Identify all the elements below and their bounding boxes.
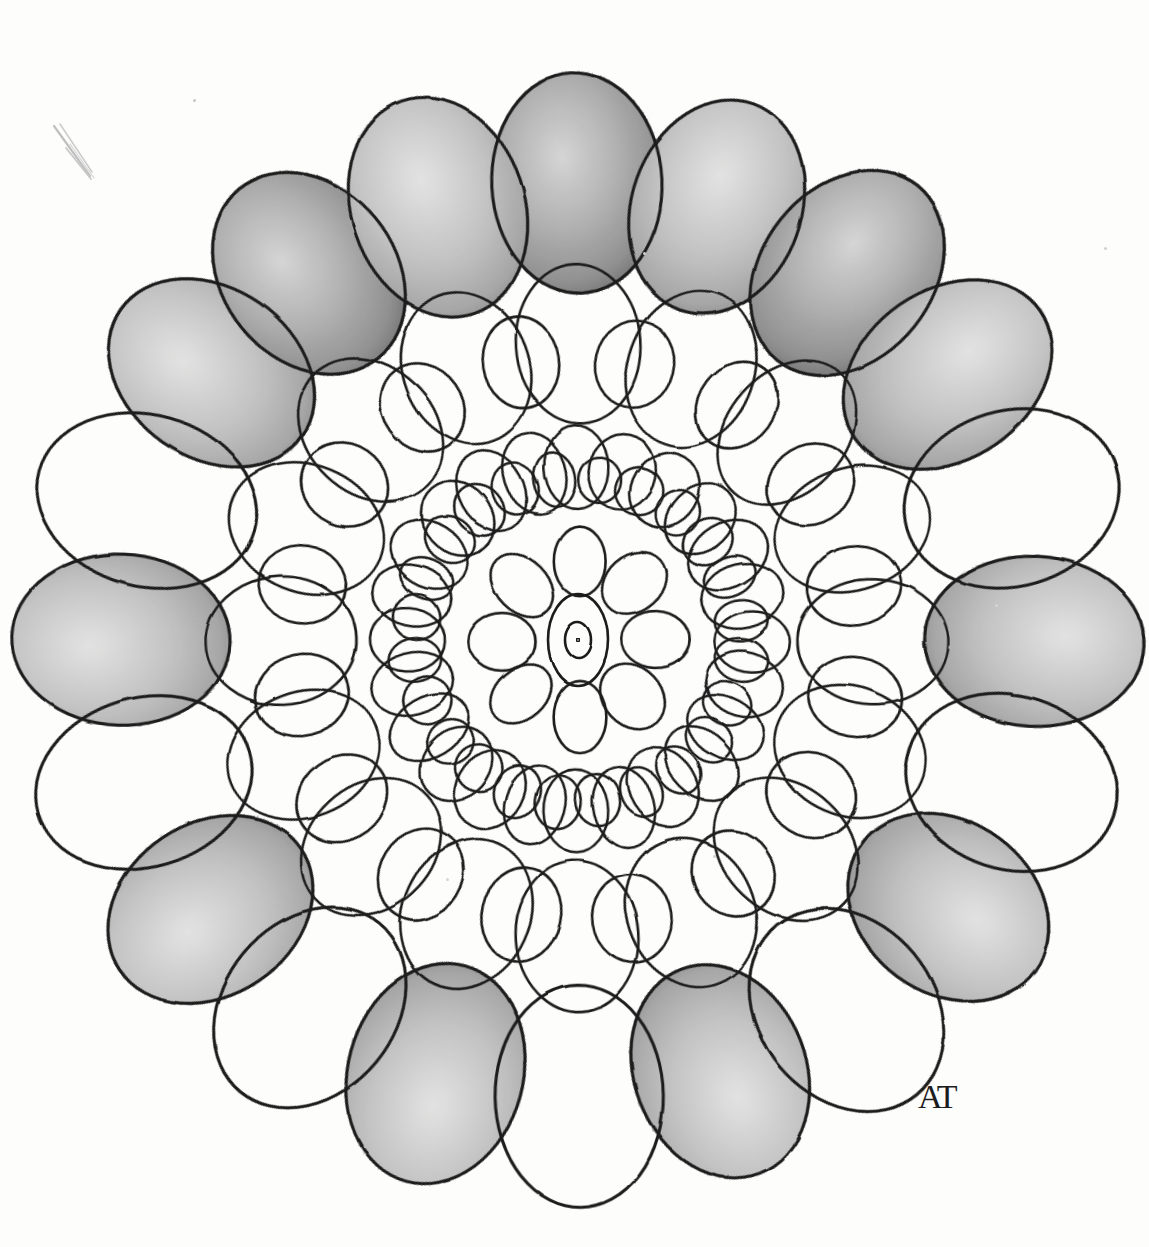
- paper-speck: [1104, 247, 1107, 250]
- middle-ring-small-lobe: [472, 860, 570, 970]
- core-outer-ellipse: [548, 594, 608, 686]
- inner-ring-large-lobe: [542, 769, 609, 854]
- paper-speck: [995, 604, 998, 607]
- core-dot: [576, 638, 579, 641]
- inner-ring-large-lobe: [378, 506, 481, 603]
- shaded-ellipse-fill: [320, 941, 552, 1206]
- paper-speck: [643, 252, 646, 255]
- artist-signature: AT: [918, 1078, 956, 1116]
- middle-ring-small-lobe: [361, 812, 481, 935]
- mandala-artwork-canvas: AT: [0, 0, 1149, 1247]
- inner-ring-small-lobe: [416, 506, 484, 572]
- middle-ring-small-lobe: [802, 540, 907, 632]
- mandala-core-layer: [548, 594, 608, 686]
- inner-ring-small-lobe: [419, 710, 482, 772]
- petal-ring-lobe: [553, 681, 606, 753]
- middle-ring-small-lobe: [679, 345, 795, 464]
- paper-speck: [713, 855, 716, 858]
- inner-ring-large-lobe: [542, 424, 610, 511]
- pencil-shading-layer: [7, 67, 1149, 1206]
- shaded-ellipse-fill: [919, 550, 1149, 733]
- middle-ring-small-lobe: [802, 649, 909, 744]
- middle-ring-small-lobe: [752, 428, 869, 542]
- shaded-ellipse-fill: [599, 936, 842, 1206]
- inner-ring-large-lobe: [649, 711, 753, 816]
- core-inner-ellipse: [565, 622, 591, 658]
- paper-speck: [193, 99, 196, 102]
- middle-ring-small-lobe: [750, 735, 873, 855]
- middle-ring-small-lobe: [586, 869, 678, 969]
- inner-ring-small-lobe: [486, 758, 549, 825]
- middle-ring-small-lobe: [279, 736, 405, 860]
- middle-ring-small-lobe: [586, 312, 683, 415]
- petal-ring-lobe: [468, 613, 535, 671]
- petal-ring-lobe: [620, 610, 690, 669]
- mandala-drawing: [0, 0, 1149, 1247]
- middle-ring-small-lobe: [476, 311, 565, 414]
- middle-ring-small-lobe: [363, 347, 481, 468]
- middle-ring-small-lobe: [253, 539, 351, 629]
- paper-speck: [446, 878, 449, 881]
- petal-ring-lobe: [553, 526, 606, 596]
